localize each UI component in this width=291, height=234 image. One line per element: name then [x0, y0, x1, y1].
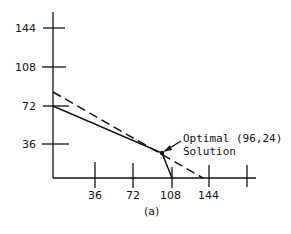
- chart: 144 108 72 36 36 72 108 144 Optimal (96,…: [0, 0, 291, 234]
- x-label-72: 72: [126, 189, 140, 202]
- dashed-constraint-line: [53, 92, 203, 178]
- x-label-108: 108: [160, 189, 181, 202]
- annotation-optimal: Optimal (96,24): [183, 132, 282, 145]
- y-label-36: 36: [22, 138, 36, 151]
- arrowhead-icon: [163, 145, 172, 152]
- annotation-solution: Solution: [183, 145, 236, 158]
- solid-constraint-line: [53, 106, 172, 178]
- figure-caption: (a): [144, 205, 159, 218]
- y-label-72: 72: [22, 100, 36, 113]
- y-label-108: 108: [15, 61, 36, 74]
- x-label-36: 36: [88, 189, 102, 202]
- x-label-144: 144: [198, 189, 219, 202]
- y-label-144: 144: [15, 22, 36, 35]
